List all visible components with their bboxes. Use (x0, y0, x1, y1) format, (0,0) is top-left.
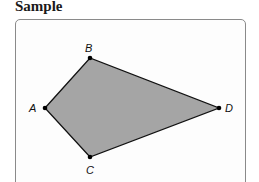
vertex-d-point (217, 106, 222, 111)
vertex-a-point (43, 106, 48, 111)
vertex-a-label: A (28, 102, 36, 114)
quadrilateral-diagram: B A D C (0, 0, 259, 182)
vertex-c-label: C (86, 164, 94, 176)
vertex-c-point (88, 155, 93, 160)
vertex-b-label: B (85, 42, 92, 54)
quadrilateral-abdc (45, 58, 219, 157)
vertex-b-point (88, 56, 93, 61)
vertex-d-label: D (225, 102, 233, 114)
